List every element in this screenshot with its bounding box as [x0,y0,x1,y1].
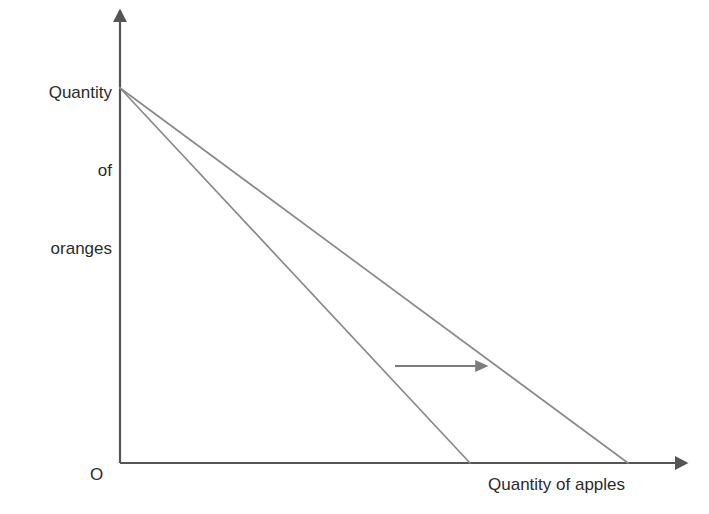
budget-constraint-figure: Quantity of oranges Quantity of apples O [0,0,709,514]
y-axis-label-line-1: Quantity [0,80,112,106]
y-axis-label-line-3: oranges [0,236,112,262]
y-axis-label-line-2: of [0,158,112,184]
origin-label: O [90,464,103,486]
initial-budget-constraint-line [120,88,470,463]
y-axis-label: Quantity of oranges [0,28,112,314]
x-axis-label: Quantity of apples [488,472,625,498]
shifted-budget-constraint-line [120,88,628,463]
